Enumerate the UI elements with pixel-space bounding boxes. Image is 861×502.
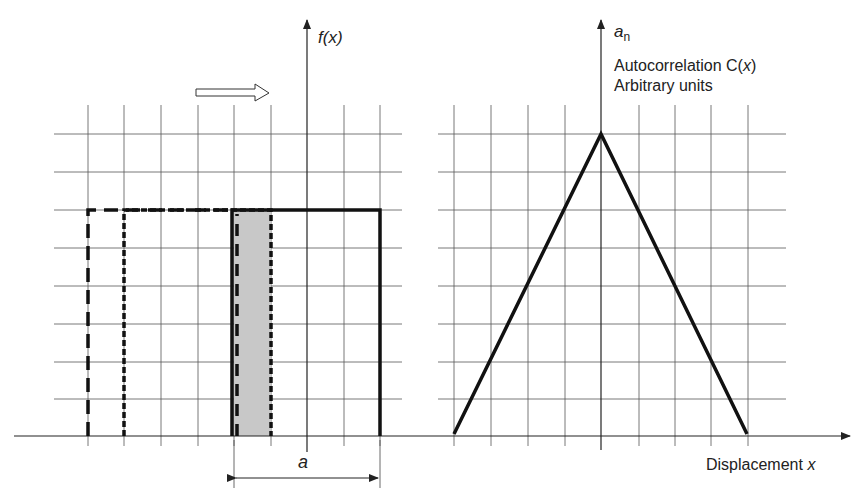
dimension-a-label: a <box>298 452 308 473</box>
shifted-function-dashed <box>88 210 232 436</box>
chart-title: Autocorrelation C(x) Arbitrary units <box>614 56 756 96</box>
left-y-axis-label: f(x) <box>318 28 343 48</box>
left-grid <box>54 105 402 446</box>
right-arrow-icon <box>196 84 269 101</box>
overlap-region <box>234 210 271 436</box>
x-axis-label: Displacement x <box>706 456 815 474</box>
right-y-axis-label: an <box>614 22 630 44</box>
